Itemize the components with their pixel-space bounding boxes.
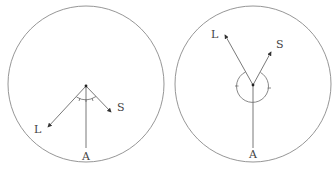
right-label-s: S <box>276 38 284 51</box>
left-label-s: S <box>117 101 125 114</box>
left-arrow-l <box>48 86 86 127</box>
right-label-a: A <box>248 148 258 161</box>
right-diagram: L S A <box>175 6 331 162</box>
diagram-canvas: L S A L S A <box>0 0 333 169</box>
right-arrow-s <box>253 52 271 85</box>
right-label-l: L <box>211 28 219 41</box>
left-label-l: L <box>34 123 42 136</box>
right-vertex-dot <box>252 84 255 87</box>
right-angle-arc <box>237 72 269 102</box>
left-diagram: L S A <box>8 6 164 163</box>
left-vertex-dot <box>85 85 88 88</box>
left-label-a: A <box>81 150 91 163</box>
